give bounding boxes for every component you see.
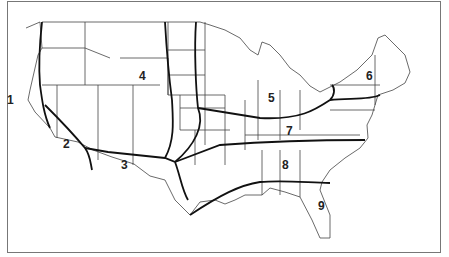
zone-boundary-4 xyxy=(165,22,173,158)
zone-label-4: 4 xyxy=(139,69,146,83)
us-map xyxy=(0,0,449,257)
zone-label-6: 6 xyxy=(366,69,373,83)
zone-label-2: 2 xyxy=(63,137,70,151)
zone-boundary-6 xyxy=(330,95,380,100)
zone-boundary-3 xyxy=(85,148,188,200)
zone-label-5: 5 xyxy=(268,91,275,105)
zone-label-1: 1 xyxy=(7,93,14,107)
zone-boundary-1 xyxy=(39,22,50,128)
zone-label-8: 8 xyxy=(282,158,289,172)
zone-label-3: 3 xyxy=(121,158,128,172)
zone-boundary-8 xyxy=(190,181,330,215)
zone-boundary-5 xyxy=(198,85,334,118)
zone-label-7: 7 xyxy=(286,124,293,138)
zone-boundary-7 xyxy=(175,140,365,162)
zone-label-9: 9 xyxy=(318,199,325,213)
zone-boundary-4b xyxy=(175,22,200,162)
